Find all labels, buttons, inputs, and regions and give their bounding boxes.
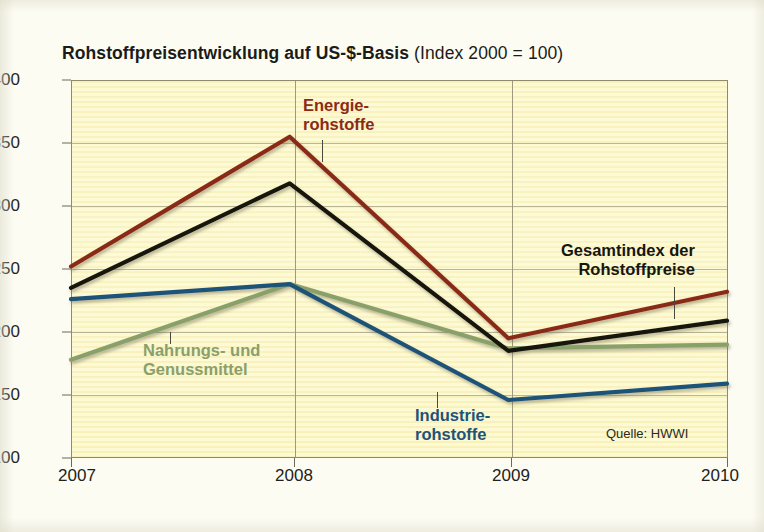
series-label-nahrung-line2: Genussmittel bbox=[143, 360, 260, 379]
series-label-energie-line2: rohstoffe bbox=[303, 115, 375, 134]
ytick-mark-250 bbox=[62, 269, 71, 270]
xtick-label-2008: 2008 bbox=[275, 466, 313, 486]
series-label-industrierohstoffe: Industrie- rohstoffe bbox=[415, 406, 490, 444]
ytick-mark-300 bbox=[62, 206, 71, 207]
chart-title-main: Rohstoffpreisentwicklung auf US-$-Basis bbox=[62, 43, 409, 63]
source-note: Quelle: HWWI bbox=[606, 426, 688, 441]
gridline-y-150 bbox=[72, 395, 727, 396]
series-label-energierohstoffe: Energie- rohstoffe bbox=[303, 96, 375, 134]
xtick-label-2010: 2010 bbox=[701, 466, 739, 486]
ytick-label-250: 250 bbox=[0, 259, 20, 279]
ytick-label-100: 100 bbox=[0, 448, 20, 468]
series-label-industrie-line1: Industrie- bbox=[415, 406, 490, 425]
gridline-y-300 bbox=[72, 206, 727, 207]
series-label-gesamt-line1: Gesamtindex der bbox=[561, 241, 695, 260]
ytick-mark-100 bbox=[62, 458, 71, 459]
xtick-label-2009: 2009 bbox=[492, 466, 530, 486]
chart-figure: Rohstoffpreisentwicklung auf US-$-Basis … bbox=[0, 0, 764, 532]
series-label-nahrungs-und-genussmittel: Nahrungs- und Genussmittel bbox=[143, 341, 260, 379]
leader-line-energie bbox=[322, 140, 323, 162]
ytick-label-300: 300 bbox=[0, 196, 20, 216]
ytick-mark-400 bbox=[62, 80, 71, 81]
leader-line-gesamt bbox=[674, 287, 675, 319]
xtick-label-2007: 2007 bbox=[58, 466, 96, 486]
chart-title-index: (Index 2000 = 100) bbox=[409, 43, 563, 63]
chart-title: Rohstoffpreisentwicklung auf US-$-Basis … bbox=[62, 43, 563, 64]
series-label-industrie-line2: rohstoffe bbox=[415, 425, 490, 444]
series-label-nahrung-line1: Nahrungs- und bbox=[143, 341, 260, 360]
ytick-mark-350 bbox=[62, 143, 71, 144]
ytick-mark-200 bbox=[62, 332, 71, 333]
series-label-gesamtindex: Gesamtindex der Rohstoffpreise bbox=[561, 241, 695, 279]
ytick-mark-150 bbox=[62, 395, 71, 396]
series-label-energie-line1: Energie- bbox=[303, 96, 375, 115]
gridline-y-350 bbox=[72, 143, 727, 144]
ytick-label-400: 400 bbox=[0, 70, 20, 90]
ytick-label-150: 150 bbox=[0, 385, 20, 405]
ytick-label-350: 350 bbox=[0, 133, 20, 153]
ytick-label-200: 200 bbox=[0, 322, 20, 342]
series-label-gesamt-line2: Rohstoffpreise bbox=[561, 260, 695, 279]
